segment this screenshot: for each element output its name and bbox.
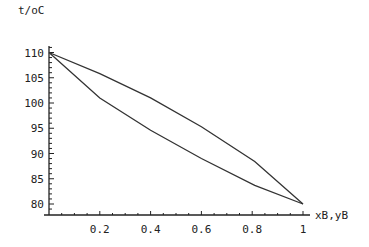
y-tick-label: 80	[31, 198, 44, 211]
x-tick-label: 0.2	[90, 223, 110, 236]
svg-text:t/oC: t/oC	[18, 4, 45, 17]
y-tick-label: 110	[24, 47, 44, 60]
x-tick-label: 0.8	[242, 223, 262, 236]
x-tick-label: 1	[300, 223, 307, 236]
series-lines	[49, 53, 303, 205]
y-tick-label: 95	[31, 122, 44, 135]
y-tick-label: 100	[24, 97, 44, 110]
y-axis-title: t/oC	[18, 4, 45, 17]
x-tick-label: 0.6	[191, 223, 211, 236]
liquid-curve	[49, 53, 303, 205]
y-tick-label: 105	[24, 72, 44, 85]
x-axis-title: xB,yB	[315, 209, 348, 222]
chart: t/oC xB,yB 80859095100105110 0.20.40.60.…	[0, 0, 369, 247]
svg-text:xB,yB: xB,yB	[315, 209, 348, 222]
y-tick-label: 90	[31, 148, 44, 161]
axes	[44, 46, 310, 215]
vapour-curve	[49, 53, 303, 205]
y-tick-label: 85	[31, 173, 44, 186]
x-tick-label: 0.4	[141, 223, 161, 236]
